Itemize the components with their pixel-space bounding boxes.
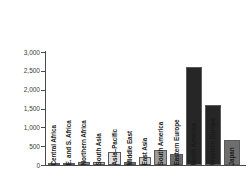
bar-slot: Japan [224,52,240,165]
bar-category-label: Central Africa [51,125,57,165]
y-tick-label: 1,000 [0,124,40,131]
y-tick-label: 500 [0,143,40,150]
bar-slot: Eastern Europe [170,52,183,165]
y-tick-label: 2,500 [0,67,40,74]
bar-category-label: Northern Africa [81,120,87,165]
bar-category-label: South America [157,121,163,165]
bar-category-label: Middle East [127,131,133,165]
bar-slot: Asia–Pacific [108,52,121,165]
bar-category-label: Japan [229,147,235,165]
bar-category-label: Asia–Pacific [111,129,117,165]
bar-series: Central Africa E. and S. Africa Northern… [46,52,245,165]
y-tick-label: 1,500 [0,105,40,112]
y-tick-label: 3,000 [0,49,40,56]
bar-slot: Western Europe [205,52,221,165]
bar-slot: E. and S. Africa [63,52,75,165]
y-tick-label: 0 [0,162,40,169]
bar-chart: 3,000 2,500 2,000 1,500 1,000 500 0 Cent… [0,0,251,183]
bar-slot: South America [154,52,167,165]
bar-category-label: Eastern Europe [173,119,179,165]
bar-slot: Northern Africa [78,52,90,165]
bar-category-label: South Asia [96,133,102,165]
bar-category-label: North America [191,123,197,166]
bar-category-label: Western Europe [210,118,216,166]
bar-category-label: East Asia [142,137,148,165]
bar-slot: Middle East [124,52,136,165]
bar-slot: East Asia [139,52,151,165]
bar-category-label: E. and S. Africa [66,120,72,165]
bar-slot: Central Africa [48,52,60,165]
y-tick-label: 2,000 [0,86,40,93]
bar-slot: North America [186,52,202,165]
bar-slot: South Asia [93,52,105,165]
